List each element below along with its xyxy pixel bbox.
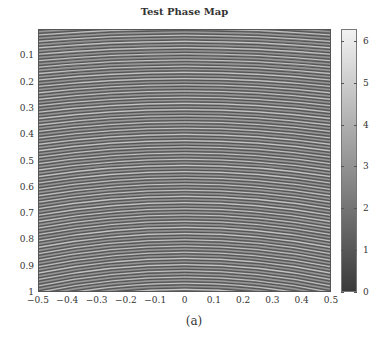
y-tick-label: 0.3	[0, 103, 34, 113]
x-tick-label: 0.4	[287, 295, 317, 305]
colorbar-tick-label: 2	[363, 203, 369, 213]
y-tick-label: 0.8	[0, 234, 34, 244]
x-tick-label: −0.3	[82, 295, 112, 305]
y-tick-label: 0.5	[0, 156, 34, 166]
x-tick-label: 0.5	[316, 295, 346, 305]
colorbar-tick-label: 1	[363, 245, 369, 255]
x-tick-label: 0	[170, 295, 200, 305]
colorbar-tick-label: 6	[363, 36, 369, 46]
x-tick-label: 0.1	[199, 295, 229, 305]
phase-map-plot	[38, 29, 331, 292]
fringe-pattern	[38, 29, 331, 292]
figure-caption: (a)	[0, 314, 388, 328]
y-tick-label: 0.2	[0, 77, 34, 87]
colorbar-tick-label: 3	[363, 161, 369, 171]
x-tick-label: 0.3	[257, 295, 287, 305]
y-tick-label: 0.7	[0, 208, 34, 218]
x-tick-label: −0.5	[23, 295, 53, 305]
colorbar-tick-label: 4	[363, 120, 369, 130]
chart-title: Test Phase Map	[38, 6, 331, 17]
x-tick-label: −0.1	[140, 295, 170, 305]
y-tick-label: 0.1	[0, 50, 34, 60]
y-tick-label: 0.9	[0, 261, 34, 271]
x-tick-label: 0.2	[228, 295, 258, 305]
y-tick-label: 0.4	[0, 129, 34, 139]
x-tick-label: −0.4	[52, 295, 82, 305]
colorbar-tick-label: 0	[363, 287, 369, 297]
colorbar	[341, 29, 357, 292]
y-tick-label: 0.6	[0, 182, 34, 192]
colorbar-tick-label: 5	[363, 78, 369, 88]
x-tick-label: −0.2	[111, 295, 141, 305]
